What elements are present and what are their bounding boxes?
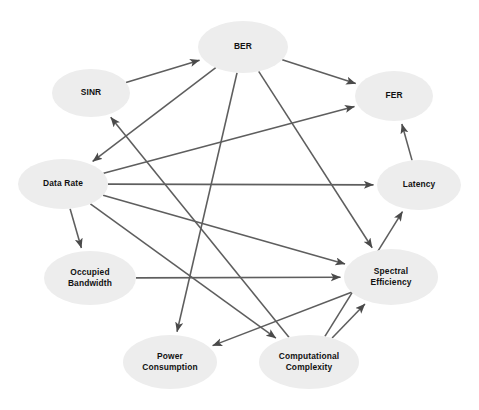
graph-edge: Data Rate to Occupied Bandwidth (70, 209, 81, 248)
graph-node-datarate[interactable]: Data Rate (18, 159, 108, 209)
node-shape[interactable] (259, 335, 359, 389)
graph-edge: Data Rate to Spectral Efficiency (103, 195, 345, 264)
node-shape[interactable] (44, 251, 136, 305)
graph-node-ber[interactable]: BER (198, 21, 288, 73)
diagram-canvas: SINR to BERBER to FERBER to Data RateBER… (0, 0, 479, 410)
graph-edge: BER to Power Consumption (177, 73, 237, 332)
node-shape[interactable] (355, 71, 433, 121)
graph-node-sinr[interactable]: SINR (52, 69, 130, 117)
node-shape[interactable] (198, 21, 288, 73)
graph-node-latency[interactable]: Latency (377, 160, 461, 210)
graph-edge: BER to FER (282, 60, 356, 84)
graph-node-spectral[interactable]: SpectralEfficiency (344, 249, 438, 305)
graph-node-power[interactable]: PowerConsumption (123, 335, 217, 389)
graph-node-fer[interactable]: FER (355, 71, 433, 121)
graph-node-obw[interactable]: OccupiedBandwidth (44, 251, 136, 305)
graph-node-comp[interactable]: ComputationalComplexity (259, 335, 359, 389)
node-shape[interactable] (52, 69, 130, 117)
node-shape[interactable] (18, 159, 108, 209)
nodes-layer: BERSINRFERData RateLatencyOccupiedBandwi… (18, 21, 461, 389)
graph-edge: Occupied Bandwidth to Spectral Efficienc… (136, 277, 341, 278)
graph-edge: Computational Complexity to SINR (111, 117, 289, 337)
node-shape[interactable] (344, 249, 438, 305)
graph-edge: Data Rate to Latency (108, 184, 374, 185)
node-shape[interactable] (377, 160, 461, 210)
graph-edge: Latency to FER (402, 124, 412, 160)
graph-edge: Spectral Efficiency to Power Consumption (213, 292, 352, 345)
graph-edge: Computational Complexity to Spectral Eff… (332, 304, 365, 338)
graph-edge: SINR to BER (126, 60, 200, 82)
node-shape[interactable] (123, 335, 217, 389)
graph-svg: SINR to BERBER to FERBER to Data RateBER… (0, 0, 479, 410)
